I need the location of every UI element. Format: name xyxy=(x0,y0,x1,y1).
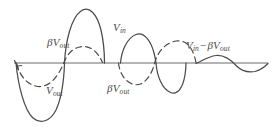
curve-beta-vout-dashed-left xyxy=(17,46,103,86)
v-subscript: out xyxy=(120,87,130,96)
label-vin-minus-beta-vout: Vin−βVout xyxy=(186,40,230,52)
curve-vout-solid xyxy=(16,9,105,121)
v-subscript: in xyxy=(120,26,126,35)
label-vout-left: Vout xyxy=(46,85,63,97)
waveform-svg xyxy=(0,0,276,129)
v-symbol: V xyxy=(113,82,120,94)
label-vin-mid: Vin xyxy=(113,22,126,34)
v-subscript: out xyxy=(60,41,70,50)
v-symbol-2: V xyxy=(213,39,220,51)
v-symbol-1: V xyxy=(186,39,193,51)
v-subscript-2: out xyxy=(220,44,230,53)
v-symbol: V xyxy=(46,84,53,96)
v-subscript: out xyxy=(53,89,63,98)
curve-vin-minus-beta-vout xyxy=(196,55,268,71)
v-symbol: V xyxy=(113,21,120,33)
v-symbol: V xyxy=(53,36,60,48)
label-beta-vout-left: βVout xyxy=(47,37,70,49)
label-beta-vout-mid: βVout xyxy=(107,83,130,95)
waveform-figure: βVout Vout Vin βVout Vin−βVout xyxy=(0,0,276,129)
